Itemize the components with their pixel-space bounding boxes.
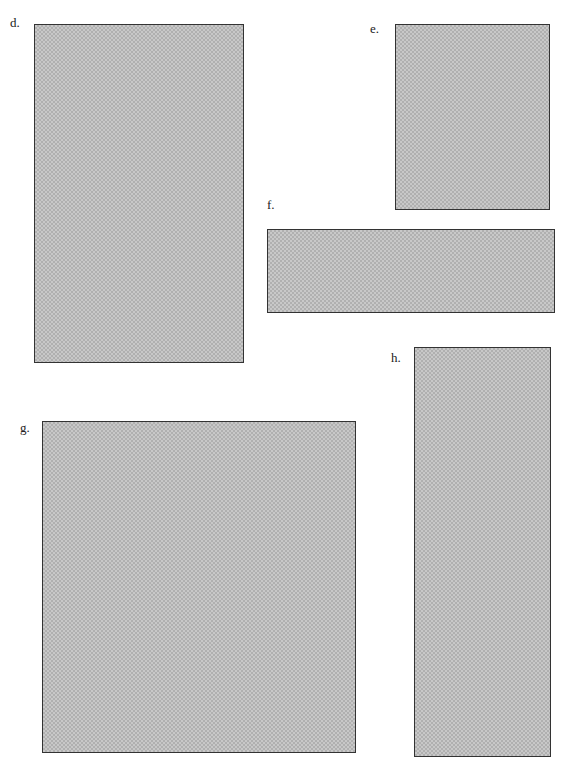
panel-label-e: e. (370, 22, 379, 35)
rectangle-h (414, 347, 551, 757)
panel-label-g: g. (20, 421, 30, 434)
rectangle-f (267, 229, 555, 313)
panel-label-f: f. (267, 198, 275, 211)
rectangle-g (42, 421, 356, 753)
rectangle-e (395, 24, 550, 210)
rectangle-d (34, 24, 244, 363)
panel-label-h: h. (391, 351, 401, 364)
panel-label-d: d. (10, 16, 20, 29)
